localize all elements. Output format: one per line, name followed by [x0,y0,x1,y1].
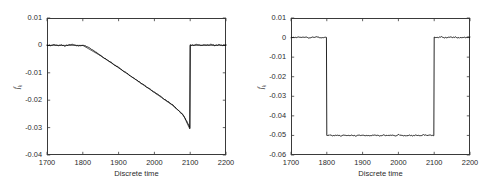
y-tick-label: 0.01 [244,14,286,21]
y-tick-label: -0.04 [0,151,42,158]
y-tick-label: 0.01 [0,14,42,21]
x-tick-label: 1700 [283,159,299,166]
x-tick-label: 1800 [75,159,91,166]
x-tick-label: 2100 [182,159,198,166]
chart-panel-right: 0.010-0.01-0.02-0.03-0.04-0.05-0.0617001… [244,0,487,186]
y-tick-label: -0.05 [244,132,286,139]
y-tick-label: 0 [0,42,42,49]
y-tick-label: -0.01 [244,53,286,60]
x-tick-label: 1700 [39,159,55,166]
series-estimate [47,45,226,129]
x-tick-label: 2200 [462,159,478,166]
x-tick-label: 1900 [354,159,370,166]
y-tick-label: -0.02 [244,73,286,80]
figure-two-panel-plots: 0.010-0.01-0.02-0.03-0.04170018001900200… [0,0,487,186]
y-tick-label: -0.03 [244,93,286,100]
series-measured [291,37,470,137]
x-tick-label: 2000 [390,159,406,166]
y-tick-label: -0.03 [0,124,42,131]
series-measured [47,44,226,127]
x-axis-label-left: Discrete time [114,170,158,178]
y-tick-label: -0.02 [0,96,42,103]
y-tick-label: -0.06 [244,151,286,158]
x-tick-label: 1800 [319,159,335,166]
chart-panel-left: 0.010-0.01-0.02-0.03-0.04170018001900200… [0,0,243,186]
y-axis-label-left: fk [13,84,23,89]
y-axis-label-subscript-right: k [261,84,267,86]
y-tick-label: 0 [244,34,286,41]
x-tick-label: 2000 [146,159,162,166]
y-tick-label: -0.04 [244,112,286,119]
x-tick-label: 2100 [426,159,442,166]
x-tick-label: 1900 [110,159,126,166]
y-axis-label-subscript-left: k [17,84,23,86]
y-tick-label: -0.01 [0,69,42,76]
x-axis-label-right: Discrete time [358,170,402,178]
y-axis-label-right: fk [257,84,267,89]
x-tick-label: 2200 [218,159,234,166]
